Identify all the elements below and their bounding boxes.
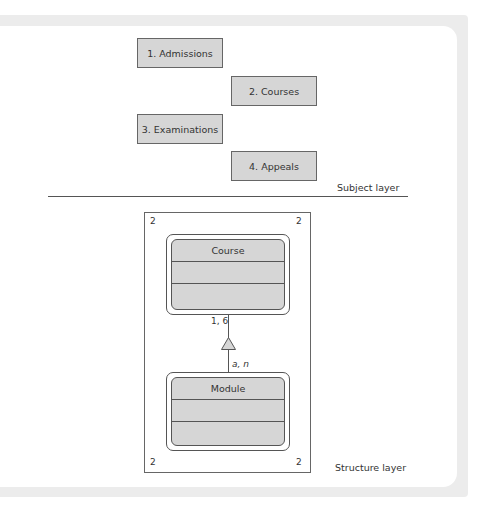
corner-number-top-left: 2 bbox=[150, 216, 156, 226]
class-course: Course bbox=[166, 234, 290, 315]
class-module-body: Module bbox=[171, 377, 285, 446]
subject-layer-label: Subject layer bbox=[337, 182, 399, 193]
class-name: Course bbox=[172, 240, 284, 262]
corner-number-bottom-left: 2 bbox=[150, 457, 156, 467]
corner-number-top-right: 2 bbox=[296, 216, 302, 226]
class-attributes bbox=[172, 400, 284, 422]
class-services bbox=[172, 422, 284, 444]
class-module: Module bbox=[166, 372, 290, 451]
subject-admissions: 1. Admissions bbox=[137, 38, 223, 68]
subject-courses: 2. Courses bbox=[231, 76, 317, 106]
subject-label: 1. Admissions bbox=[147, 48, 213, 59]
lower-multiplicity: a, n bbox=[232, 359, 249, 369]
upper-multiplicity: 1, 6 bbox=[211, 316, 228, 326]
class-course-body: Course bbox=[171, 239, 285, 310]
class-name: Module bbox=[172, 378, 284, 400]
subject-label: 3. Examinations bbox=[142, 124, 218, 135]
layer-divider bbox=[48, 196, 408, 197]
corner-number-bottom-right: 2 bbox=[296, 457, 302, 467]
subject-appeals: 4. Appeals bbox=[231, 151, 317, 181]
class-services bbox=[172, 284, 284, 306]
subject-label: 2. Courses bbox=[249, 86, 299, 97]
subject-examinations: 3. Examinations bbox=[137, 114, 223, 144]
structure-layer-label: Structure layer bbox=[335, 462, 406, 473]
subject-label: 4. Appeals bbox=[249, 161, 299, 172]
generalization-triangle-icon bbox=[221, 337, 236, 350]
class-attributes bbox=[172, 262, 284, 284]
